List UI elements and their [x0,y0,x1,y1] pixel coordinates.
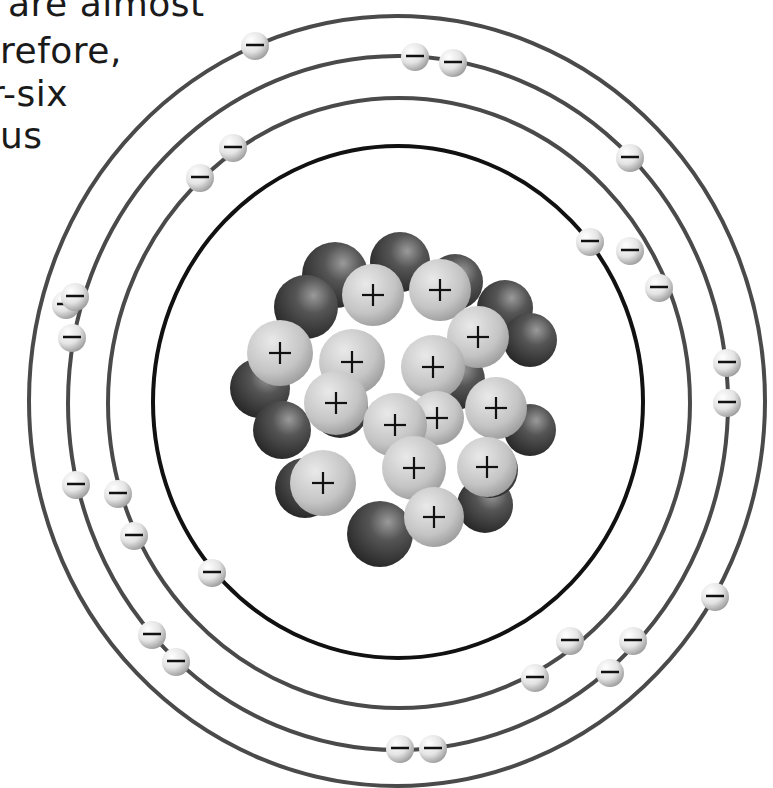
electron [186,164,214,192]
electron [58,324,86,352]
electron [616,144,644,172]
electron [138,621,166,649]
electron [439,49,467,77]
electron [61,283,89,311]
electron [419,735,447,763]
proton [457,437,517,497]
electron [401,43,429,71]
electron [162,648,190,676]
electron [241,32,269,60]
electron [198,559,226,587]
electron [645,274,673,302]
electron [713,349,741,377]
proton [304,371,368,435]
nucleus [230,232,557,567]
electron [104,480,132,508]
electron [596,659,624,687]
proton [404,487,464,547]
proton [342,264,404,326]
electron [521,664,549,692]
neutron [347,501,413,567]
electron [713,389,741,417]
electron [576,228,604,256]
proton [290,450,356,516]
electron [219,134,247,162]
electron [120,522,148,550]
electron [619,627,647,655]
proton [247,320,313,386]
neutron [253,401,311,459]
electron [556,627,584,655]
proton [401,335,465,399]
electron [386,735,414,763]
electron [616,237,644,265]
neutron [503,313,557,367]
electron [62,471,90,499]
atom-diagram [0,0,773,788]
electron [701,583,729,611]
proton [465,377,527,439]
